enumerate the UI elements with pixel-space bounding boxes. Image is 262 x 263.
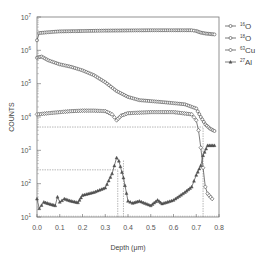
x-tick-label: 0.1 (55, 224, 65, 231)
circle-marker (213, 130, 216, 133)
series-18O (36, 55, 216, 132)
data-series (35, 29, 216, 210)
triangle-marker (104, 186, 107, 189)
x-tick-label: 0.4 (123, 224, 133, 231)
diamond-marker (229, 48, 233, 52)
triangle-marker (109, 176, 112, 179)
triangle-marker (198, 167, 201, 170)
legend-item-27Al: 27Al (225, 58, 252, 67)
triangle-marker (190, 185, 193, 188)
diamond-marker (199, 146, 203, 150)
triangle-marker (123, 184, 126, 187)
triangle-marker (122, 176, 125, 179)
triangle-marker (199, 164, 202, 167)
x-tick-label: 0.5 (146, 224, 156, 231)
triangle-marker (195, 174, 198, 177)
legend-label: 18O (240, 34, 251, 43)
legend-label: 16O (240, 22, 251, 31)
circle-marker (213, 33, 216, 36)
triangle-marker (196, 170, 199, 173)
triangle-marker (115, 156, 118, 159)
series-63Cu (35, 109, 214, 201)
y-tick-label: 101 (21, 213, 32, 221)
y-axis-label: COUNTS (8, 102, 15, 132)
triangle-marker (56, 195, 59, 198)
y-tick-label: 104 (21, 113, 32, 121)
triangle-marker (107, 179, 110, 182)
x-axis-label: Depth (μm) (110, 244, 145, 252)
triangle-marker (113, 164, 116, 167)
x-tick-label: 0.6 (169, 224, 179, 231)
axis-ticks: 0.00.10.20.30.40.50.60.70.81011021031041… (21, 13, 224, 232)
series-27Al (36, 144, 216, 210)
y-tick-label: 106 (21, 46, 32, 54)
triangle-marker (120, 171, 123, 174)
circle-marker (195, 107, 198, 110)
triangle-marker (125, 192, 128, 195)
circle-marker (196, 110, 199, 113)
triangle-marker (111, 172, 114, 175)
x-tick-label: 0.2 (78, 224, 88, 231)
y-tick-label: 103 (21, 146, 32, 154)
x-tick-label: 0.7 (191, 224, 201, 231)
legend-item-18O: 18O (225, 34, 251, 43)
depth-profile-chart: 0.00.10.20.30.40.50.60.70.81011021031041… (0, 0, 262, 263)
x-tick-label: 0.8 (214, 224, 224, 231)
legend: 16O18O63Cu27Al (225, 22, 255, 67)
legend-item-16O: 16O (225, 22, 251, 31)
series-line (37, 57, 214, 131)
series-16O (36, 29, 216, 42)
y-tick-label: 107 (21, 13, 32, 21)
triangle-marker (127, 199, 130, 202)
triangle-marker (203, 151, 206, 154)
triangle-marker (119, 165, 122, 168)
circle-marker (229, 37, 232, 40)
triangle-marker (205, 147, 208, 150)
triangle-marker (36, 197, 39, 200)
diamond-marker (197, 128, 201, 132)
reference-lines (37, 127, 203, 217)
triangle-marker (192, 179, 195, 182)
triangle-marker (105, 183, 108, 186)
diamond-marker (204, 185, 208, 189)
x-tick-label: 0.0 (32, 224, 42, 231)
legend-label: 27Al (240, 58, 252, 67)
y-tick-label: 105 (21, 79, 32, 87)
triangle-marker (202, 154, 205, 157)
legend-item-63Cu: 63Cu (225, 46, 255, 55)
circle-marker (198, 113, 201, 116)
y-tick-label: 102 (21, 179, 32, 187)
legend-label: 63Cu (240, 46, 255, 55)
x-tick-label: 0.3 (100, 224, 110, 231)
circle-marker (229, 25, 232, 28)
